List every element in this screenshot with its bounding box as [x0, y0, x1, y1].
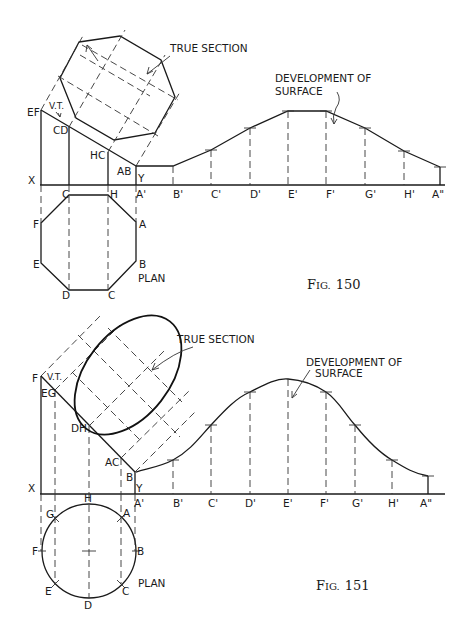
- svg-text:E: E: [45, 585, 52, 597]
- projector: [89, 350, 165, 426]
- svg-text:E': E': [283, 497, 293, 509]
- svg-text:F': F': [326, 188, 335, 200]
- point-f: F: [32, 372, 38, 384]
- svg-text:A: A: [139, 218, 147, 230]
- point-ab: AB: [117, 165, 131, 177]
- svg-text:F: F: [33, 218, 39, 230]
- development-generators: [173, 111, 404, 185]
- svg-text:C': C': [211, 188, 221, 200]
- leader-line: [152, 347, 193, 370]
- true-section-label: TRUE SECTION: [176, 333, 255, 345]
- projector: [108, 55, 165, 152]
- section-axis: [82, 45, 178, 100]
- svg-text:D': D': [245, 497, 256, 509]
- leader-line: [292, 370, 310, 398]
- arrow-icon: [56, 112, 61, 117]
- svg-text:C': C': [208, 497, 218, 509]
- svg-text:D': D': [250, 188, 261, 200]
- svg-text:B: B: [137, 545, 144, 557]
- svg-text:G': G': [365, 188, 376, 200]
- plan-label: PLAN: [138, 577, 165, 589]
- svg-text:F': F': [320, 497, 329, 509]
- development-label-1: DEVELOPMENT OF: [275, 72, 371, 84]
- plan-octagon: [41, 195, 136, 290]
- svg-text:E: E: [33, 258, 40, 270]
- development-label-2: SURFACE: [315, 367, 363, 379]
- point-ac: AC: [105, 456, 119, 468]
- svg-text:B: B: [139, 258, 146, 270]
- svg-text:B': B': [173, 188, 183, 200]
- plan-labels: G A F B E C D: [32, 507, 144, 611]
- svg-text:G': G': [352, 497, 363, 509]
- drawing-canvas: X Y TRUE SECTION EF V.T. CD HC AB: [0, 0, 465, 619]
- svg-text:E': E': [288, 188, 298, 200]
- point-hc: HC: [90, 149, 105, 161]
- fig-151: X Y TRUE SECTION F V.T. EG DH AC B: [28, 296, 445, 611]
- point-dh: DH: [71, 422, 87, 434]
- development-curve: [136, 379, 428, 476]
- svg-text:A": A": [420, 497, 432, 509]
- label-y: Y: [137, 172, 145, 184]
- svg-text:A': A': [136, 188, 146, 200]
- svg-text:H': H': [388, 497, 399, 509]
- svg-text:C: C: [122, 585, 129, 597]
- svg-text:H: H: [84, 492, 92, 504]
- svg-text:H': H': [404, 188, 415, 200]
- label-x: X: [28, 174, 35, 186]
- true-section-label: TRUE SECTION: [169, 42, 248, 54]
- figure-caption: FIG.151: [316, 578, 370, 593]
- svg-text:G: G: [46, 508, 54, 520]
- point-ef: EF: [27, 106, 40, 118]
- svg-text:A": A": [432, 188, 444, 200]
- svg-text:D: D: [84, 599, 92, 611]
- svg-text:F: F: [32, 545, 38, 557]
- tick-marks: [205, 111, 446, 167]
- point-eg: EG: [41, 387, 56, 399]
- vt-label: V.T.: [49, 101, 64, 111]
- figure-caption: FIG.150: [307, 277, 361, 292]
- development-generators: [173, 379, 392, 494]
- vertical-trace: [41, 110, 136, 166]
- point-b: B: [126, 471, 133, 483]
- fig-150: X Y TRUE SECTION EF V.T. CD HC AB: [27, 30, 446, 301]
- point-cd: CD: [53, 124, 68, 136]
- vt-label: V.T.: [47, 372, 62, 382]
- projector: [55, 325, 120, 390]
- svg-text:A': A': [134, 497, 144, 509]
- section-axis: [80, 55, 150, 96]
- label-x: X: [28, 482, 35, 494]
- plan-label: PLAN: [138, 272, 165, 284]
- xy-labels: C H A' B' C' D' E' F' G' H' A": [62, 188, 444, 200]
- arrow-icon: [331, 118, 337, 124]
- projector: [41, 316, 100, 376]
- leader-line: [333, 92, 339, 124]
- svg-text:D: D: [62, 289, 70, 301]
- projector: [136, 92, 180, 166]
- label-y: Y: [135, 482, 143, 494]
- svg-text:A: A: [123, 507, 131, 519]
- section-axis: [58, 76, 158, 136]
- tick-marks: [167, 392, 434, 476]
- svg-text:C: C: [108, 289, 115, 301]
- plan-labels: A B C D E F: [33, 218, 147, 301]
- development-label-2: SURFACE: [275, 85, 323, 97]
- section-axis: [108, 328, 182, 402]
- svg-text:B': B': [173, 497, 183, 509]
